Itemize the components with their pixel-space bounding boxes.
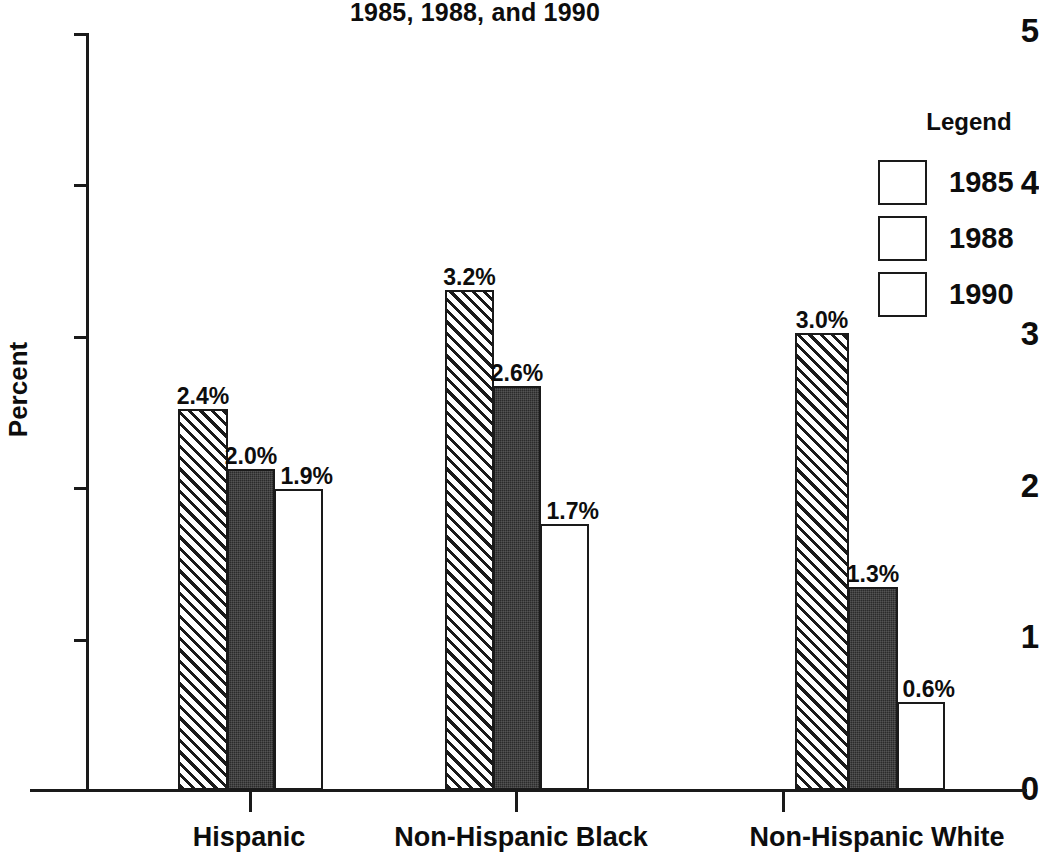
legend-item-1988[interactable]: 1988 xyxy=(878,210,1038,266)
y-axis-title: Percent xyxy=(3,310,34,470)
legend-item-1985[interactable]: 1985 xyxy=(878,154,1038,210)
legend-title: Legend xyxy=(900,108,1038,136)
x-tick-mark-3 xyxy=(782,792,785,812)
bar-hispanic-1988[interactable]: 2.0% xyxy=(227,469,275,790)
hatched-square-icon xyxy=(878,160,927,205)
legend-item-label: 1990 xyxy=(949,280,1014,309)
bar-value-label: 2.6% xyxy=(491,362,543,385)
bar-non-hispanic-black-1990[interactable]: 1.7% xyxy=(540,524,589,790)
bar-value-label: 1.7% xyxy=(547,500,599,523)
bar-value-label: 3.0% xyxy=(796,309,848,332)
bar-value-label: 2.4% xyxy=(177,385,229,408)
chart-title: 1985, 1988, and 1990 xyxy=(250,0,700,27)
legend-item-label: 1985 xyxy=(949,168,1014,197)
bar-value-label: 2.0% xyxy=(225,445,277,468)
bar-hispanic-1985[interactable]: 2.4% xyxy=(178,409,228,790)
bar-non-hispanic-white-1985[interactable]: 3.0% xyxy=(795,333,849,790)
x-category-label-hispanic: Hispanic xyxy=(193,822,306,853)
bar-non-hispanic-black-1988[interactable]: 2.6% xyxy=(493,386,541,790)
bar-non-hispanic-black-1985[interactable]: 3.2% xyxy=(445,290,494,790)
bar-non-hispanic-white-1990[interactable]: 0.6% xyxy=(897,702,945,790)
bar-hispanic-1990[interactable]: 1.9% xyxy=(274,489,323,790)
bar-value-label: 3.2% xyxy=(443,266,495,289)
bar-value-label: 0.6% xyxy=(903,678,955,701)
legend-item-label: 1988 xyxy=(949,224,1014,253)
bar-value-label: 1.9% xyxy=(281,465,333,488)
x-axis-line xyxy=(30,789,1027,792)
bar-chart-figure: 1985, 1988, and 1990 5 4 3 2 1 0 Percent… xyxy=(0,0,1039,863)
legend-item-1990[interactable]: 1990 xyxy=(878,266,1038,322)
legend: Legend 1985 1988 1990 xyxy=(878,108,1038,322)
x-tick-mark-1 xyxy=(249,792,252,812)
x-category-label-non-hispanic-black: Non-Hispanic Black xyxy=(394,822,648,853)
filled-square-icon xyxy=(878,216,927,261)
x-category-label-non-hispanic-white: Non-Hispanic White xyxy=(750,822,1005,853)
bar-non-hispanic-white-1988[interactable]: 1.3% xyxy=(848,587,898,790)
x-tick-mark-2 xyxy=(515,792,518,812)
bar-value-label: 1.3% xyxy=(847,563,899,586)
empty-square-icon xyxy=(878,272,927,317)
